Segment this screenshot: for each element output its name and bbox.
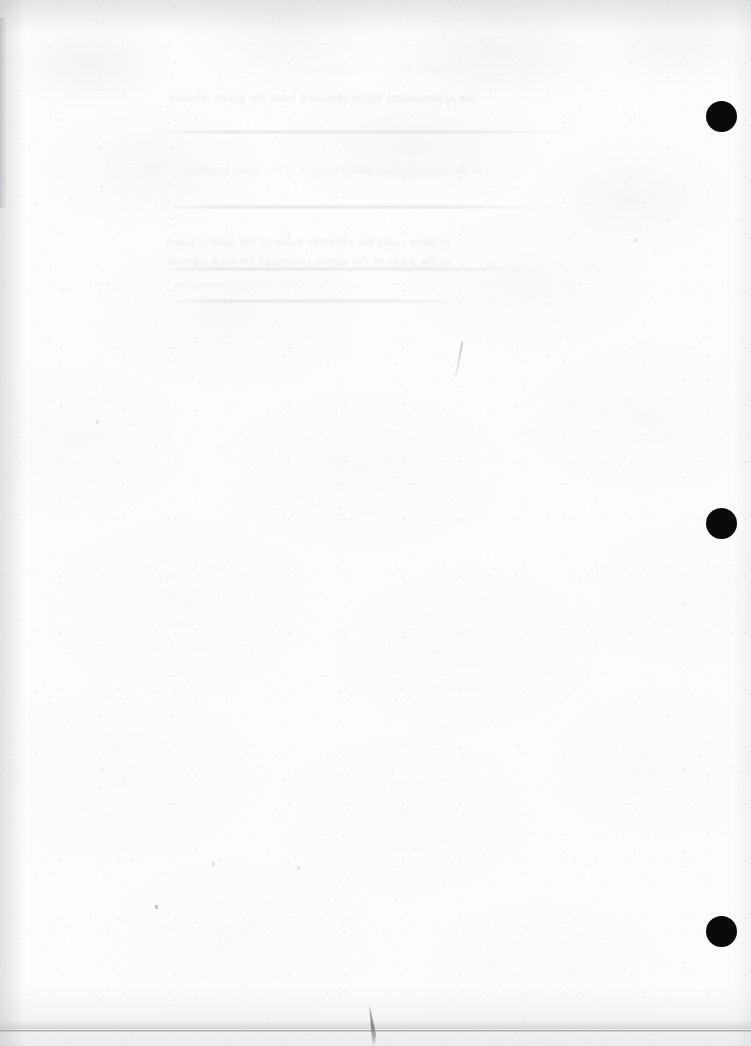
dust-speck: [155, 905, 158, 909]
dust-speck: [96, 420, 99, 424]
page-edge-soft-band: [0, 1020, 751, 1029]
registration-dot: [706, 101, 737, 132]
ghost-rule: [158, 206, 558, 208]
ghost-rule: [150, 131, 580, 133]
ghost-rule: [150, 268, 530, 270]
scanned-page: continued from the preceding page the ap…: [0, 0, 751, 1046]
registration-dot: [706, 508, 737, 539]
scan-edge-shadow-top: [0, 0, 751, 34]
dust-speck: [634, 238, 637, 242]
dust-speck: [297, 866, 300, 870]
dust-speck: [212, 862, 215, 866]
ghost-rule: [170, 300, 470, 302]
registration-dot: [706, 916, 737, 947]
paper-grain: [0, 0, 751, 1046]
scan-gutter-shadow: [0, 18, 7, 208]
